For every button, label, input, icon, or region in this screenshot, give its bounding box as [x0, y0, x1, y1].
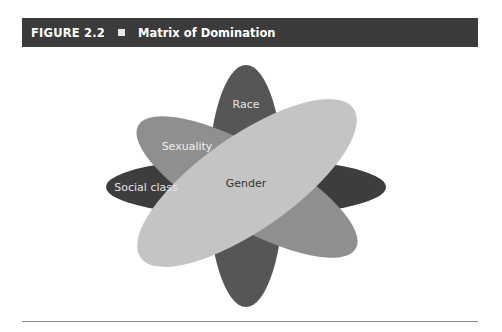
label-race: Race — [233, 98, 260, 111]
label-social-class: Social class — [114, 181, 178, 194]
label-gender: Gender — [226, 177, 267, 190]
label-sexuality: Sexuality — [162, 140, 213, 153]
matrix-diagram: Race Sexuality Social class Gender — [0, 0, 502, 332]
bottom-rule — [22, 321, 478, 322]
